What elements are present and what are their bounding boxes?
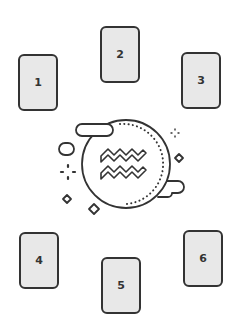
sparkle-left-icon [61, 165, 75, 179]
diamond-left-large-icon [89, 204, 99, 214]
diamond-left-small-icon [63, 195, 71, 203]
cloud-top-icon [76, 124, 113, 136]
aquarius-moon-icon [0, 0, 241, 332]
sparkle-right-icon [171, 129, 179, 137]
diamond-right-icon [175, 154, 183, 162]
cloud-left-icon [59, 143, 74, 155]
